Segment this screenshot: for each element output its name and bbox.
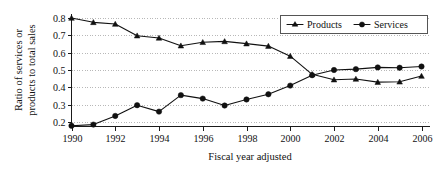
circle-marker [375,65,380,70]
circle-marker [244,97,249,102]
x-tick-label: 2004 [369,133,389,144]
x-tick-label: 2000 [281,133,301,144]
series-services [69,64,424,129]
circle-marker [353,66,358,71]
x-tick-label: 1992 [106,133,126,144]
x-tick-label: 1996 [194,133,214,144]
circle-marker [113,113,118,118]
triangle-marker [287,53,293,58]
legend[interactable]: Products Services [281,16,428,34]
circle-marker [331,67,336,72]
circle-marker [156,109,161,114]
circle-marker [397,65,402,70]
x-tick-label: 2002 [325,133,345,144]
x-axis-label: Fiscal year adjusted [208,151,292,162]
circle-icon [359,22,364,27]
y-tick-label: 0.4 [53,82,66,93]
circle-marker [69,123,74,128]
circle-marker [419,64,424,69]
circle-marker [288,83,293,88]
chart-figure: 0.20.30.40.50.60.70.8 199019921994199619… [0,0,437,174]
y-axis-label-line2: products to total sales [26,24,37,115]
circle-marker [222,103,227,108]
y-tick-label: 0.5 [53,65,66,76]
y-tick-label: 0.8 [53,13,66,24]
circle-marker [134,102,139,107]
x-tick-label: 2006 [413,133,433,144]
x-tick-label: 1990 [63,133,83,144]
circle-marker [309,73,314,78]
circle-marker [178,92,183,97]
legend-label-services: Services [374,19,408,30]
line-chart: 0.20.30.40.50.60.70.8 199019921994199619… [0,0,437,174]
triangle-marker [69,15,75,20]
x-tick-label: 1998 [238,133,258,144]
circle-marker [200,96,205,101]
legend-label-products: Products [307,19,342,30]
x-tick-label: 1994 [150,133,170,144]
y-axis-ticks-group: 0.20.30.40.50.60.70.8 [53,13,72,128]
y-tick-label: 0.2 [53,117,66,128]
x-axis-ticks-group: 199019921994199619982000200220042006 [63,127,433,145]
y-tick-label: 0.7 [53,30,66,41]
gridlines-group [72,19,430,123]
circle-marker [266,92,271,97]
y-tick-label: 0.6 [53,48,66,59]
triangle-marker [419,73,425,78]
y-tick-label: 0.3 [53,100,66,111]
circle-marker [91,122,96,127]
series-line [72,67,422,126]
y-axis-label-line1: Ratio of services or [13,29,24,111]
